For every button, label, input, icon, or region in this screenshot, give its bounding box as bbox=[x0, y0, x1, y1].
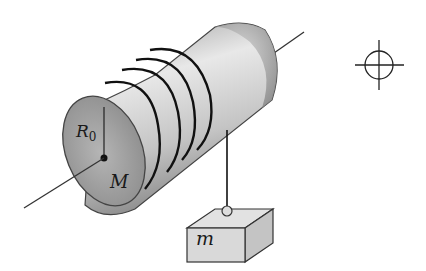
rope-hook bbox=[222, 206, 232, 216]
radius-label: R0 bbox=[76, 121, 96, 144]
cylinder-mass-label: M bbox=[110, 171, 128, 192]
block-mass-label: m bbox=[196, 227, 214, 249]
diagram-canvas: R0 M m bbox=[0, 0, 426, 271]
crosshair-icon bbox=[355, 40, 404, 90]
